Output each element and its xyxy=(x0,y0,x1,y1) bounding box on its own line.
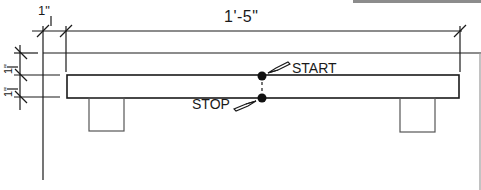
dimension-label-top-small: 1" xyxy=(38,4,50,17)
start-arrow-icon xyxy=(268,62,290,73)
dimension-label-top-main: 1'-5" xyxy=(224,9,258,25)
stop-arrow-icon xyxy=(234,101,256,111)
dimension-label-left-upper: 1" xyxy=(3,64,14,74)
start-point xyxy=(258,72,267,81)
start-label: START xyxy=(292,61,337,75)
dimension-label-left-lower: 1" xyxy=(3,87,14,97)
technical-drawing xyxy=(0,0,481,190)
stop-label: STOP xyxy=(192,97,230,111)
stop-point xyxy=(258,94,267,103)
leg-right xyxy=(400,98,435,132)
leg-left xyxy=(89,98,124,131)
